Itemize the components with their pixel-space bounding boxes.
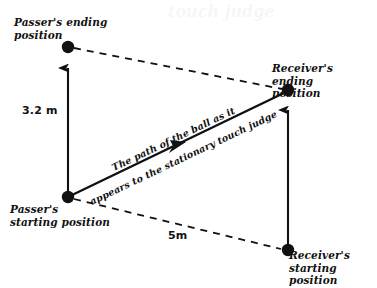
label-passer-starting-position: Passer's starting position [10,203,110,228]
node-passer-ending [62,41,74,53]
node-passer-starting [62,191,74,203]
measurement-vertical-distance: 3.2 m [22,104,58,117]
measurement-horizontal-distance: 5m [168,229,188,242]
vector-diagram-svg [0,0,377,288]
label-receiver-starting-position: Receiver's starting position [289,249,377,287]
guide-line-ending-positions [74,48,282,89]
label-receiver-ending-position: Receiver's ending position [272,62,377,100]
label-passer-ending-position: Passer's ending position [14,16,107,41]
figure-canvas: touch judge Passer's ending position [0,0,377,288]
